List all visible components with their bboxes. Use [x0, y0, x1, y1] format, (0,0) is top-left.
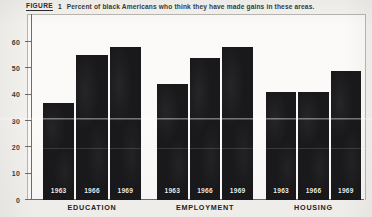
- figure-caption-number: 1: [58, 3, 62, 10]
- y-axis-tick-20: 20: [25, 146, 32, 147]
- bar-education-1963[interactable]: 1963: [43, 103, 74, 200]
- y-axis-tick-30: 30: [25, 120, 32, 121]
- y-axis-tick-label: 60: [12, 38, 20, 45]
- bar-group-bars: 196319661969: [157, 14, 253, 200]
- y-axis-tick-label: 10: [12, 170, 20, 177]
- figure-caption: FIGURE 1 Percent of black Americans who …: [26, 1, 315, 12]
- y-axis-tick-label: 50: [12, 64, 20, 71]
- bar-employment-1969[interactable]: 1969: [222, 47, 253, 200]
- bar-education-1966[interactable]: 1966: [76, 55, 107, 200]
- bar-year-label: 1966: [306, 187, 322, 194]
- category-label-employment: EMPLOYMENT: [157, 203, 253, 212]
- y-axis-tick-50: 50: [25, 67, 32, 68]
- category-label-education: EDUCATION: [43, 203, 141, 212]
- bar-year-label: 1969: [230, 187, 246, 194]
- bar-year-label: 1969: [117, 187, 133, 194]
- bar-chart: 0102030405060 196319661969EDUCATION19631…: [0, 14, 372, 217]
- bar-year-label: 1969: [338, 187, 354, 194]
- y-axis-tick-0: 0: [25, 199, 32, 200]
- y-axis-tick-label: 40: [12, 91, 20, 98]
- y-axis-tick-label: 20: [12, 143, 20, 150]
- bar-group-bars: 196319661969: [43, 14, 141, 200]
- bar-housing-1966[interactable]: 1966: [298, 92, 328, 200]
- figure-caption-label: FIGURE: [26, 2, 53, 11]
- y-axis-tick-10: 10: [25, 173, 32, 174]
- y-axis-tick-label: 0: [16, 196, 20, 203]
- bar-group-housing: 196319661969HOUSING: [266, 14, 361, 200]
- bar-education-1969[interactable]: 1969: [110, 47, 141, 200]
- bar-employment-1963[interactable]: 1963: [157, 84, 188, 200]
- bar-group-bars: 196319661969: [266, 14, 361, 200]
- y-axis-tick-40: 40: [25, 94, 32, 95]
- bar-year-label: 1963: [51, 187, 67, 194]
- category-label-housing: HOUSING: [266, 203, 361, 212]
- bar-group-education: 196319661969EDUCATION: [43, 14, 141, 200]
- bar-year-label: 1966: [197, 187, 213, 194]
- bar-year-label: 1963: [165, 187, 181, 194]
- plot-area: 0102030405060 196319661969EDUCATION19631…: [31, 14, 362, 200]
- figure-caption-text: Percent of black Americans who think the…: [67, 3, 315, 10]
- bar-group-employment: 196319661969EMPLOYMENT: [157, 14, 253, 200]
- y-axis-tick-label: 30: [12, 117, 20, 124]
- bar-housing-1969[interactable]: 1969: [331, 71, 361, 200]
- bar-housing-1963[interactable]: 1963: [266, 92, 296, 200]
- y-axis-tick-60: 60: [25, 41, 32, 42]
- bar-year-label: 1966: [84, 187, 100, 194]
- bar-employment-1966[interactable]: 1966: [190, 58, 221, 200]
- bar-year-label: 1963: [273, 187, 289, 194]
